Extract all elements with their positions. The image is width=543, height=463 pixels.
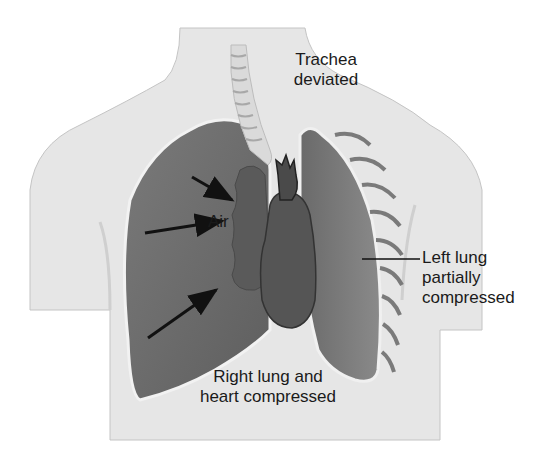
label-line: partially xyxy=(422,268,515,288)
aorta xyxy=(276,155,297,200)
label-line: Air xyxy=(208,212,229,232)
heart xyxy=(261,192,316,328)
label-line: Left lung xyxy=(422,248,515,268)
label-line: deviated xyxy=(285,70,367,90)
label-trachea-deviated: Trachea deviated xyxy=(285,50,367,90)
label-line: Trachea xyxy=(285,50,367,70)
label-right-lung-heart: Right lung and heart compressed xyxy=(198,367,338,407)
label-line: compressed xyxy=(422,288,515,308)
label-line: heart compressed xyxy=(198,387,338,407)
label-air: Air xyxy=(208,212,229,232)
label-left-lung: Left lung partially compressed xyxy=(422,248,515,308)
label-line: Right lung and xyxy=(198,367,338,387)
